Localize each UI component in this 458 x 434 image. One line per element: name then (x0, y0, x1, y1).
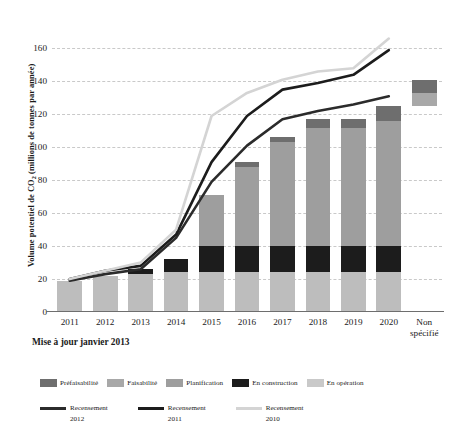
legend-line-label-line1: Recensement (266, 403, 304, 414)
y-tick-label-140: 140 (21, 76, 47, 86)
legend-line-item[interactable]: Recensement2011 (138, 403, 206, 424)
x-axis-label: 2017 (265, 317, 300, 328)
legend-swatch-icon (107, 379, 124, 387)
y-tick-label-120: 120 (21, 109, 47, 119)
line-series (70, 96, 389, 280)
legend-item[interactable]: En construction (232, 379, 297, 387)
y-tick-label-40: 40 (21, 241, 47, 251)
y-tick-label-60: 60 (21, 208, 47, 218)
x-axis-label: 2018 (300, 317, 335, 328)
co2-potential-volume-chart: Volume potentiel de CO2 (millions de ton… (0, 0, 458, 434)
x-axis-label: Nonspécifié (407, 317, 442, 338)
legend-line-label-line2: 2010 (266, 414, 304, 425)
legend-line-item[interactable]: Recensement2010 (236, 403, 304, 424)
legend-item[interactable]: Préfaisabilité (40, 379, 98, 387)
legend-item-label: En construction (252, 379, 297, 387)
legend-item-label: Planification (186, 379, 223, 387)
legend-line-label-line2: 2011 (168, 414, 206, 425)
plot-area: 020406080100120140160 201120122013201420… (52, 32, 442, 312)
line-series-layer (52, 32, 442, 312)
x-axis-label: 2020 (371, 317, 406, 328)
x-axis-label: 2011 (52, 317, 87, 328)
y-tick-label-160: 160 (21, 43, 47, 53)
x-axis-label: 2019 (336, 317, 371, 328)
legend-line-label-line1: Recensement (70, 403, 108, 414)
x-axis-label-line: Non (407, 317, 442, 328)
chart-caption: Mise à jour janvier 2013 (32, 337, 130, 347)
x-axis-label: 2013 (123, 317, 158, 328)
legend-item[interactable]: Planification (166, 379, 223, 387)
x-axis-label-line: spécifié (407, 328, 442, 339)
y-tick-label-20: 20 (21, 274, 47, 284)
x-axis-label: 2015 (194, 317, 229, 328)
legend-line-label-line2: 2012 (70, 414, 108, 425)
y-axis-title: Volume potentiel de CO2 (millions de ton… (27, 15, 38, 315)
legend-line-series: Recensement2012Recensement2011Recensemen… (40, 403, 450, 424)
legend-line-swatch-icon (236, 407, 262, 410)
legend-stacked-categories: PréfaisabilitéFaisabilitéPlanificationEn… (40, 379, 450, 387)
legend-item[interactable]: Faisabilité (107, 379, 157, 387)
legend-swatch-icon (166, 379, 183, 387)
y-axis-title-pre: Volume potentiel de CO (27, 179, 36, 267)
legend-line-swatch-icon (40, 407, 66, 410)
x-axis-line (46, 311, 444, 312)
legend-line-item[interactable]: Recensement2012 (40, 403, 108, 424)
legend-swatch-icon (40, 379, 57, 387)
y-tick-label-100: 100 (21, 142, 47, 152)
y-tick-label-80: 80 (21, 175, 47, 185)
x-axis-label: 2014 (158, 317, 193, 328)
legend-item-label: Faisabilité (127, 379, 157, 387)
legend-swatch-icon (307, 379, 324, 387)
legend-swatch-icon (232, 379, 249, 387)
legend-item-label: Préfaisabilité (60, 379, 98, 387)
legend-item[interactable]: En opération (307, 379, 364, 387)
x-axis-label: 2016 (229, 317, 264, 328)
x-axis-label: 2012 (87, 317, 122, 328)
legend-line-label-line1: Recensement (168, 403, 206, 414)
y-tick-label-0: 0 (21, 307, 47, 317)
legend-line-swatch-icon (138, 407, 164, 410)
line-series (70, 39, 389, 279)
legend-item-label: En opération (327, 379, 364, 387)
